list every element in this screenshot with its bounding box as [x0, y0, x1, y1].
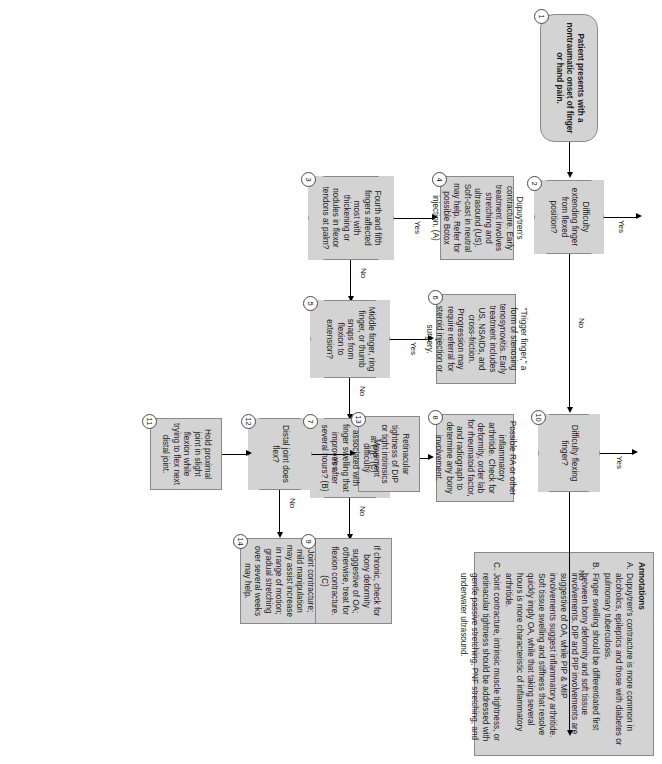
edge-label-10-no: No	[577, 570, 586, 580]
connector-2-no	[569, 254, 570, 409]
edge-label-10-yes: Yes	[615, 456, 624, 469]
node-12-decision: Distal joint does flex?	[248, 418, 312, 490]
annotations-panel: Annotations A. Dupuytren's contracture i…	[474, 552, 654, 756]
node-4-process: Dupuytren's contracture. Early treatment…	[440, 176, 514, 260]
node-number-7: 7	[303, 414, 318, 429]
node-5-label: Middle finger, ring finger, or thumb sna…	[324, 300, 377, 378]
annotation-text-a: Dupuytren's contracture is more common i…	[601, 573, 634, 746]
node-number-2: 2	[527, 176, 542, 191]
connector-5-no	[349, 378, 350, 416]
node-number-4: 4	[432, 172, 447, 187]
edge-label-5-no: No	[358, 386, 367, 396]
node-number-6: 6	[428, 290, 443, 305]
node-8-process: Possible RA or other inflammatory arthri…	[436, 414, 514, 502]
arrowhead-11-to-12	[246, 450, 252, 456]
edge-label-3-yes: Yes	[413, 221, 422, 234]
node-10-decision: Difficulty flexing finger?	[538, 414, 600, 492]
annotation-text-c: Joint contracture, intrinsic muscle tigh…	[458, 573, 502, 746]
connector-7-no	[349, 498, 350, 536]
node-number-9: 9	[301, 534, 316, 549]
edge-label-2-no: No	[577, 318, 586, 328]
edge-label-7-no: No	[358, 506, 367, 516]
arrowhead-2-no	[568, 407, 574, 413]
annotation-item-b: B. Finger swelling should be differentia…	[502, 562, 600, 746]
node-5-decision: Middle finger, ring finger, or thumb sna…	[310, 300, 390, 378]
arrowhead-2-yes	[636, 213, 642, 219]
node-10-label: Difficulty flexing finger?	[559, 414, 580, 492]
node-7-label: Movement difficulty associated with fing…	[319, 418, 382, 498]
node-number-11: 11	[142, 414, 157, 429]
edge-label-3-no: No	[359, 268, 368, 278]
edge-label-5-yes: Yes	[409, 342, 418, 355]
node-3-decision: Fourth and fifth fingers affected most w…	[308, 176, 394, 260]
annotation-item-c: C. Joint contracture, intrinsic muscle t…	[458, 562, 502, 746]
arrowhead-10-yes	[632, 449, 638, 455]
connector-3-yes	[394, 218, 434, 219]
node-14-process: Joint contracture; mild manipulation may…	[240, 538, 316, 624]
flowchart-page: Annotations A. Dupuytren's contracture i…	[0, 0, 662, 764]
node-9-process: If chronic, check for bony deformity sug…	[308, 538, 392, 624]
connector-1-to-2	[569, 142, 570, 174]
node-number-1: 1	[534, 9, 549, 24]
node-6-label: "Trigger finger," a form of stenosing te…	[424, 299, 529, 379]
edge-label-2-yes: Yes	[617, 220, 626, 233]
node-number-14: 14	[233, 534, 248, 549]
node-3-label: Fourth and fifth fingers affected most w…	[320, 176, 383, 260]
node-11-label: Hold proximal joint in slight flexion wh…	[160, 423, 213, 485]
node-number-13: 13	[351, 412, 366, 427]
connector-12-no	[279, 490, 280, 534]
annotation-item-a: A. Dupuytren's contracture is more commo…	[601, 562, 634, 746]
node-6-process: "Trigger finger," a form of stenosing te…	[436, 294, 516, 384]
annotation-text-b: Finger swelling should be differentiated…	[502, 573, 600, 746]
node-8-label: Possible RA or other inflammatory arthri…	[433, 419, 517, 497]
connector-10-no	[569, 492, 570, 732]
node-12-label: Distal joint does flex?	[270, 418, 291, 490]
node-2-decision: Difficulty extending finger from flexed …	[534, 180, 604, 254]
node-number-8: 8	[428, 410, 443, 425]
node-7-decision: Movement difficulty associated with fing…	[310, 418, 390, 498]
annotation-letter-c: C.	[458, 562, 502, 573]
node-1-label: Patient presents with a nontraumatic ons…	[553, 19, 585, 137]
node-number-3: 3	[301, 172, 316, 187]
connector-3-no	[350, 260, 351, 298]
arrowhead-1-to-2	[568, 172, 574, 178]
node-number-10: 10	[531, 410, 546, 425]
arrowhead-10-no	[568, 730, 574, 736]
node-9-label: If chronic, check for bony deformity sug…	[319, 543, 382, 619]
node-14-label: Joint contracture; mild manipulation may…	[241, 543, 315, 619]
node-2-label: Difficulty extending finger from flexed …	[548, 180, 590, 254]
node-1-terminator: Patient presents with a nontraumatic ons…	[540, 14, 598, 142]
connector-10-yes	[600, 453, 634, 454]
node-4-label: Dupuytren's contracture. Early treatment…	[430, 181, 525, 255]
annotations-title: Annotations	[635, 562, 646, 746]
node-number-12: 12	[241, 414, 256, 429]
node-11-process: Hold proximal joint in slight flexion wh…	[150, 418, 222, 490]
edge-label-12-no: No	[288, 498, 297, 508]
node-number-5: 5	[303, 296, 318, 311]
connector-2-yes	[604, 217, 638, 218]
annotation-letter-a: A.	[601, 562, 634, 573]
connector-11-to-12	[222, 454, 248, 455]
flowchart-canvas: Annotations A. Dupuytren's contracture i…	[0, 0, 662, 764]
